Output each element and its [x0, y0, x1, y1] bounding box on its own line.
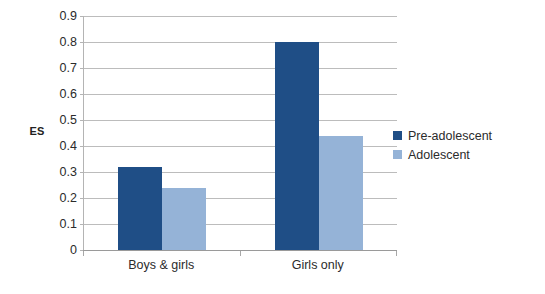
gridline	[84, 16, 397, 17]
y-axis-tick-label: 0.1	[37, 218, 77, 230]
y-axis-tick-label: 0.5	[37, 114, 77, 126]
y-axis-tick-label: 0.2	[37, 192, 77, 204]
x-axis-tick-label: Girls only	[248, 258, 388, 272]
legend-item: Pre-adolescent	[393, 126, 492, 145]
y-axis-tick-label: 0	[37, 244, 77, 256]
x-axis-tick-mark	[396, 251, 397, 256]
y-axis-tick-label: 0.3	[37, 166, 77, 178]
legend-item: Adolescent	[393, 145, 492, 164]
x-axis-tick-mark	[240, 251, 241, 256]
y-axis-tick-label: 0.6	[37, 88, 77, 100]
bar	[118, 167, 162, 250]
y-axis-tick-label: 0.9	[37, 10, 77, 22]
y-axis-tick-label: 0.4	[37, 140, 77, 152]
legend-swatch-icon	[393, 131, 402, 140]
y-axis-tick-mark	[80, 68, 84, 69]
y-axis-tick-mark	[80, 94, 84, 95]
plot-area	[83, 16, 396, 250]
bar	[319, 136, 363, 250]
legend-label: Adolescent	[408, 148, 470, 162]
y-axis-tick-mark	[80, 16, 84, 17]
bar	[275, 42, 319, 250]
legend-swatch-icon	[393, 150, 402, 159]
gridline	[84, 42, 397, 43]
legend-label: Pre-adolescent	[408, 129, 492, 143]
x-axis-tick-mark	[83, 251, 84, 256]
y-axis-tick-mark	[80, 146, 84, 147]
x-axis-tick-label: Boys & girls	[91, 258, 231, 272]
y-axis-tick-mark	[80, 198, 84, 199]
y-axis-tick-labels: 00.10.20.30.40.50.60.70.80.9	[33, 16, 77, 250]
y-axis-tick-mark	[80, 172, 84, 173]
bar-chart: ES 00.10.20.30.40.50.60.70.80.9 Boys & g…	[0, 0, 545, 294]
y-axis-tick-mark	[80, 42, 84, 43]
y-axis-tick-mark	[80, 224, 84, 225]
gridline	[84, 94, 397, 95]
bar	[162, 188, 206, 250]
chart-legend: Pre-adolescentAdolescent	[393, 126, 492, 164]
y-axis-tick-mark	[80, 120, 84, 121]
gridline	[84, 68, 397, 69]
y-axis-tick-label: 0.8	[37, 36, 77, 48]
y-axis-tick-label: 0.7	[37, 62, 77, 74]
gridline	[84, 120, 397, 121]
